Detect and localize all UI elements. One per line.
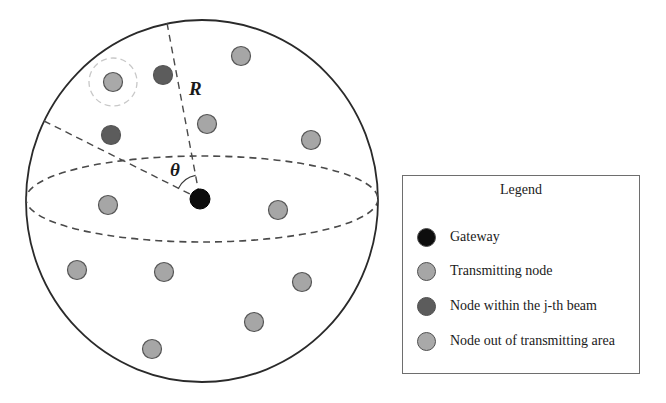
transmitting-node (245, 313, 264, 332)
legend-label: Node within the j-th beam (450, 298, 597, 314)
legend-label: Node out of transmitting area (450, 333, 615, 349)
gateway-node (190, 189, 210, 209)
transmitting-node (302, 131, 321, 150)
legend-item-out-of-area-node: Node out of transmitting area (417, 330, 615, 352)
beam-node-dot-icon (417, 297, 436, 316)
legend-item-transmitting-node: Transmitting node (417, 260, 553, 282)
angle-theta-label: θ (170, 159, 180, 180)
transmitting-node (99, 196, 118, 215)
theta-angle-arc (179, 175, 196, 188)
legend-label: Gateway (450, 229, 500, 245)
legend-item-beam-node: Node within the j-th beam (417, 295, 597, 317)
legend-title: Legend (403, 182, 639, 198)
gateway-dot-icon (417, 228, 436, 247)
legend-item-gateway: Gateway (417, 226, 500, 248)
beam-node (154, 66, 173, 85)
out-of-area-node-dot-icon (417, 332, 436, 351)
transmitting-node (68, 261, 87, 280)
transmitting-node (143, 340, 162, 359)
beam-node (102, 126, 121, 145)
legend-box: Legend Gateway Transmitting node Node wi… (402, 175, 640, 374)
transmitting-node (293, 273, 312, 292)
radius-label: R (188, 78, 202, 99)
transmitting-node (269, 201, 288, 220)
out-of-area-node (104, 73, 123, 92)
transmitting-node-dot-icon (417, 262, 436, 281)
transmitting-node (155, 263, 174, 282)
transmitting-node (198, 115, 217, 134)
transmitting-node (232, 47, 251, 66)
legend-label: Transmitting node (450, 263, 553, 279)
